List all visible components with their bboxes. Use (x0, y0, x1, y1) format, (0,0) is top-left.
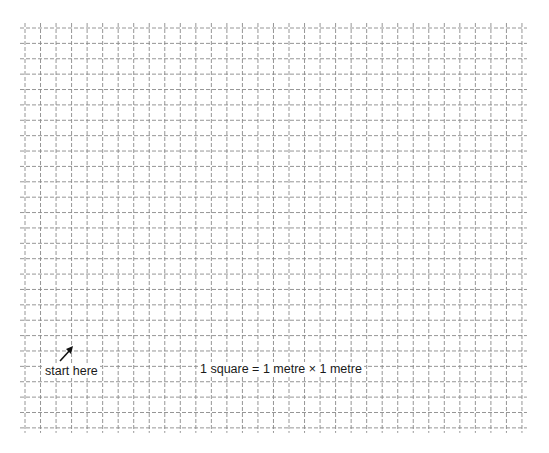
scale-label: 1 square = 1 metre × 1 metre (198, 362, 364, 376)
arrow-up-right-icon (56, 343, 78, 365)
square-grid (0, 0, 549, 453)
start-here-label: start here (43, 364, 100, 378)
